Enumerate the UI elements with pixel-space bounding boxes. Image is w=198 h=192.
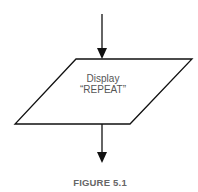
figure-5-1: Display “REPEAT” FIGURE 5.1 bbox=[0, 0, 198, 192]
display-node-line-2: “REPEAT” bbox=[66, 84, 140, 95]
arrowhead-down-icon bbox=[97, 48, 107, 59]
figure-caption: FIGURE 5.1 bbox=[60, 177, 140, 188]
display-node-text: Display “REPEAT” bbox=[66, 73, 140, 95]
arrowhead-down-icon bbox=[97, 152, 107, 163]
outgoing-arrow bbox=[97, 124, 107, 163]
display-node-line-1: Display bbox=[66, 73, 140, 84]
flowchart-canvas bbox=[0, 0, 198, 192]
incoming-arrow bbox=[97, 14, 107, 59]
